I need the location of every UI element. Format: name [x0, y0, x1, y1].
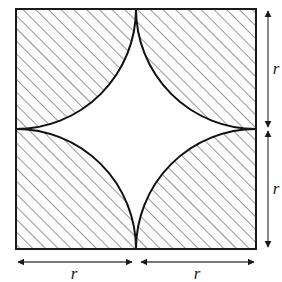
bottom-left-dimension-label: r [71, 264, 78, 282]
right-lower-dimension-label: r [273, 179, 280, 198]
horizontal-dimensions: r r [18, 262, 254, 282]
right-upper-dimension-label: r [273, 59, 280, 78]
vertical-dimensions: r r [268, 11, 280, 247]
bottom-right-dimension-label: r [194, 264, 201, 282]
geometry-figure-container: r r r r [0, 0, 282, 282]
square-quarter-circles-diagram: r r r r [0, 0, 282, 282]
